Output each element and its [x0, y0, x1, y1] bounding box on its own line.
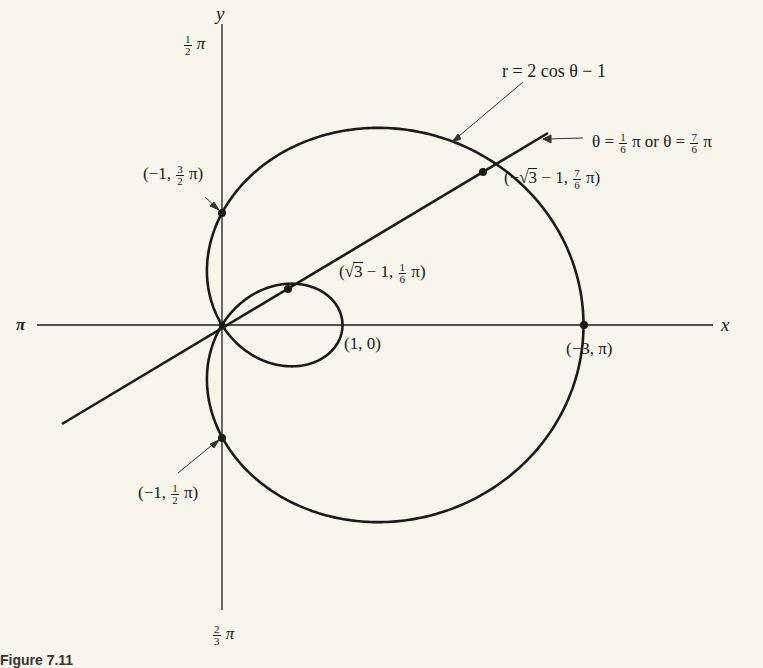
fraction: 16: [399, 262, 407, 285]
curve-equation-label: r = 2 cos θ − 1: [502, 62, 606, 80]
denominator: 6: [399, 274, 407, 285]
fraction: 16: [619, 132, 627, 155]
radicand: 3: [353, 262, 363, 280]
point-label-neg1-half-pi: (−1, 12 π): [138, 483, 198, 506]
fraction: 76: [573, 168, 581, 191]
label-text: π): [407, 262, 426, 281]
denominator: 3: [213, 636, 221, 647]
denominator: 2: [171, 495, 179, 506]
fraction: 76: [690, 132, 698, 155]
eq-middle: π or θ =: [628, 132, 690, 151]
point-neg1-half-pi: [218, 434, 226, 442]
fraction: 23: [213, 624, 221, 647]
top-axis-label: 12 π: [183, 34, 205, 57]
label-text: (−1,: [143, 164, 175, 183]
denominator: 6: [690, 144, 698, 155]
radicand: 3: [528, 168, 538, 186]
point-neg-sqrt3-7sixth-pi: [479, 168, 487, 176]
label-text: − 1,: [363, 262, 398, 281]
denominator: 2: [176, 176, 184, 187]
figure-caption: Figure 7.11: [0, 652, 73, 668]
label-text: (−: [504, 168, 519, 187]
arrowhead-point-half: [210, 440, 219, 448]
denominator: 6: [619, 144, 627, 155]
arrow-curve-label: [452, 82, 523, 142]
label-text: − 1,: [537, 168, 572, 187]
point-sqrt3-sixth-pi: [284, 285, 292, 293]
y-axis-label: y: [216, 4, 224, 23]
line-theta-pi-over-6: [62, 133, 548, 424]
eq-suffix: π: [699, 132, 712, 151]
bottom-axis-label: 23 π: [212, 624, 234, 647]
label-text: (−1,: [138, 483, 170, 502]
point-label-sqrt3-sixth-pi: (√3 − 1, 16 π): [339, 262, 426, 285]
point-neg1-3half-pi: [218, 209, 226, 217]
point-label-neg-sqrt3-7sixth-pi: (−√3 − 1, 76 π): [504, 168, 600, 191]
x-axis-label: x: [721, 315, 729, 334]
point-label-neg1-3half-pi: (−1, 32 π): [143, 164, 203, 187]
label-text: π): [582, 168, 601, 187]
point-label-1-0: (1, 0): [344, 335, 381, 352]
left-axis-label: π: [16, 316, 25, 333]
point-label-neg3-pi: (−3, π): [566, 340, 613, 357]
fraction: 12: [171, 483, 179, 506]
pi-symbol: π: [193, 34, 206, 53]
line-equation-label: θ = 16 π or θ = 76 π: [592, 132, 712, 155]
label-text: π): [185, 164, 204, 183]
fraction: 32: [176, 164, 184, 187]
denominator: 6: [573, 180, 581, 191]
pole-point: [219, 322, 225, 328]
point-neg3-pi: [580, 321, 588, 329]
fraction: 12: [184, 34, 192, 57]
eq-prefix: θ =: [592, 132, 618, 151]
pi-symbol: π: [222, 624, 235, 643]
denominator: 2: [184, 46, 192, 57]
marked-points: [218, 168, 588, 442]
label-text: π): [180, 483, 199, 502]
